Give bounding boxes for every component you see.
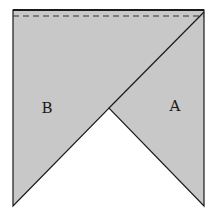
folded-paper-diagram: B A bbox=[0, 0, 217, 224]
label-b: B bbox=[41, 99, 52, 117]
label-a: A bbox=[169, 97, 181, 115]
